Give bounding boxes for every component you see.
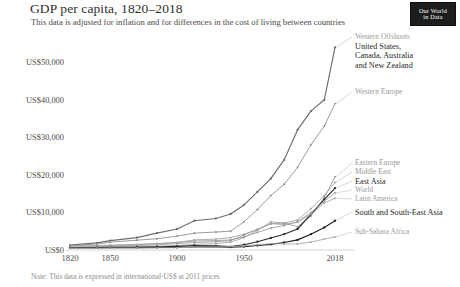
x-axis-tick-label: 2018: [326, 253, 343, 263]
series-label-western-europe[interactable]: Western Europe: [355, 88, 402, 97]
series-label-primary: South and South-East Asia: [355, 208, 443, 218]
series-label-secondary: United States, Canada, Australia and New…: [355, 42, 427, 70]
series-label-primary: Latin America: [355, 195, 397, 204]
series-label-latin-america[interactable]: Latin America: [355, 195, 397, 204]
x-axis-tick-label: 1820: [61, 253, 78, 263]
series-label-primary: Middle East: [355, 168, 391, 177]
series-label-western-offshoots[interactable]: Western OffshootsUnited States, Canada, …: [355, 33, 427, 70]
y-axis-tick-label: US$50,000: [26, 58, 64, 67]
y-axis-tick-label: US$20,000: [26, 170, 64, 179]
y-axis-tick-label: US$40,000: [26, 95, 64, 104]
chart-note: Note: This data is expressed in internat…: [31, 272, 220, 281]
y-axis-tick-label: US$10,000: [26, 208, 64, 217]
series-label-south-and-south-east-asia[interactable]: South and South-East Asia: [355, 208, 443, 218]
series-label-sub-sahara-africa[interactable]: Sub-Sahara Africa: [355, 228, 409, 237]
series-label-primary: Western Europe: [355, 88, 402, 97]
series-label-primary: Western Offshoots: [355, 33, 427, 42]
series-label-primary: Sub-Sahara Africa: [355, 228, 409, 237]
chart-page: GDP per capita, 1820–2018 This data is a…: [0, 0, 460, 287]
x-axis-tick-label: 1900: [168, 253, 185, 263]
y-axis-tick-label: US$30,000: [26, 133, 64, 142]
series-label-middle-east[interactable]: Middle East: [355, 168, 391, 177]
x-axis-tick-label: 1950: [235, 253, 252, 263]
x-axis-tick-label: 1850: [102, 253, 119, 263]
